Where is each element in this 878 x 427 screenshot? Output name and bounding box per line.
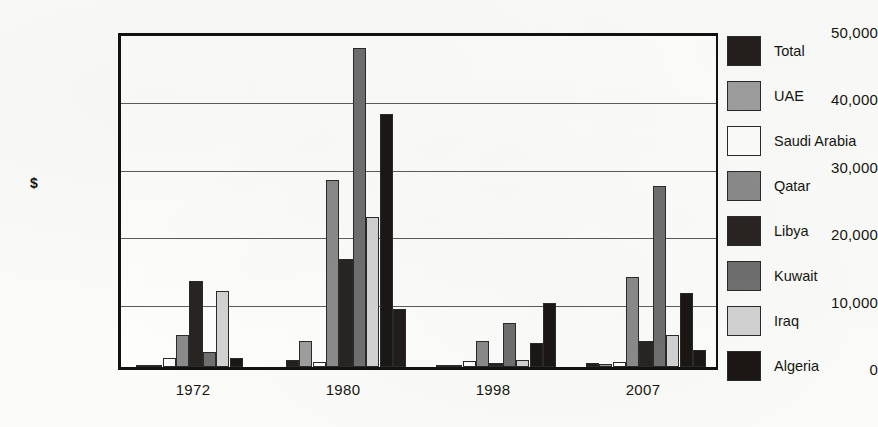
bar-libya-2007 <box>639 341 652 367</box>
x-axis-tick-label-1980: 1980 <box>303 381 383 398</box>
legend-item-label: Libya <box>774 223 809 239</box>
legend-item-saudi-arabia[interactable]: Saudi Arabia <box>727 118 872 163</box>
legend-item-kuwait[interactable]: Kuwait <box>727 253 872 298</box>
x-axis-tick-label-1998: 1998 <box>453 381 533 398</box>
bar-extra-2007 <box>693 350 706 367</box>
y-axis-title: $ <box>30 175 38 191</box>
legend-swatch-icon <box>727 216 761 246</box>
bar-group-2007 <box>121 36 721 367</box>
bar-total-2007 <box>586 363 599 367</box>
legend-swatch-icon <box>727 351 761 381</box>
legend-swatch-icon <box>727 306 761 336</box>
legend-item-label: Saudi Arabia <box>774 133 856 149</box>
legend-item-label: Qatar <box>774 178 810 194</box>
bar-saudi-arabia-2007 <box>613 362 626 367</box>
legend-swatch-icon <box>727 126 761 156</box>
legend-swatch-icon <box>727 81 761 111</box>
legend-item-label: Algeria <box>774 358 819 374</box>
bar-algeria-2007 <box>680 293 693 367</box>
legend-swatch-icon <box>727 171 761 201</box>
x-axis-tick-label-1972: 1972 <box>153 381 233 398</box>
legend-item-label: Kuwait <box>774 268 818 284</box>
bar-iraq-2007 <box>666 335 679 367</box>
legend-item-algeria[interactable]: Algeria <box>727 343 872 388</box>
legend-item-qatar[interactable]: Qatar <box>727 163 872 208</box>
bar-kuwait-2007 <box>653 186 666 367</box>
legend-item-total[interactable]: Total <box>727 28 872 73</box>
legend-item-label: UAE <box>774 88 804 104</box>
bar-qatar-2007 <box>626 277 639 367</box>
legend-item-libya[interactable]: Libya <box>727 208 872 253</box>
chart-legend: TotalUAESaudi ArabiaQatarLibyaKuwaitIraq… <box>727 28 872 388</box>
legend-item-iraq[interactable]: Iraq <box>727 298 872 343</box>
plot-area <box>118 33 718 370</box>
bar-uae-2007 <box>599 364 612 367</box>
legend-item-uae[interactable]: UAE <box>727 73 872 118</box>
legend-swatch-icon <box>727 261 761 291</box>
legend-item-label: Total <box>774 43 805 59</box>
legend-item-label: Iraq <box>774 313 799 329</box>
chart-page: $ 50,00040,00030,00020,00010,0000 197219… <box>0 0 878 427</box>
x-axis-tick-label-2007: 2007 <box>603 381 683 398</box>
legend-swatch-icon <box>727 36 761 66</box>
